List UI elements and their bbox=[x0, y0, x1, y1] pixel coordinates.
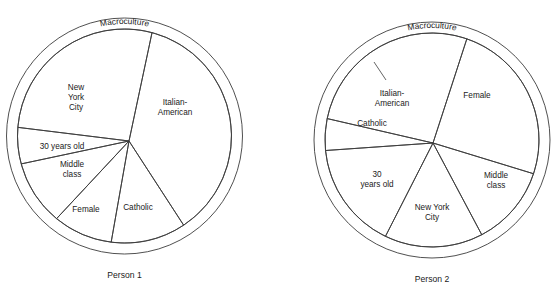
slice-label-female-person-2: Female bbox=[463, 91, 491, 100]
slice-label-new-york-city-person-2: New YorkCity bbox=[415, 203, 450, 222]
slice-label-new-york-city-person-1: NewYorkCity bbox=[68, 83, 85, 113]
wheel-person-2: FemaleMiddleclassNew YorkCity30years old… bbox=[314, 20, 550, 284]
slice-label-female-person-1: Female bbox=[72, 205, 100, 214]
slice-label-catholic-person-1: Catholic bbox=[123, 203, 153, 212]
slice-new-york-city-person-1[interactable] bbox=[18, 29, 152, 141]
outer-ring-person-2 bbox=[314, 22, 550, 258]
caption-person-2: Person 2 bbox=[415, 274, 450, 284]
slice-new-york-city-person-2[interactable] bbox=[385, 143, 481, 247]
caption-person-1: Person 1 bbox=[107, 270, 142, 280]
slice-label-italian-american-person-1: Italian-American bbox=[158, 98, 193, 117]
identity-wheels-figure: Italian-AmericanCatholicFemaleMiddleclas… bbox=[0, 0, 559, 301]
slice-label-middle-class-person-1: Middleclass bbox=[60, 160, 85, 179]
slice-30-years-old-person-2[interactable] bbox=[326, 143, 433, 236]
macroculture-label-person-2: Macroculture bbox=[406, 20, 458, 33]
wheel-person-1: Italian-AmericanCatholicFemaleMiddleclas… bbox=[7, 16, 243, 280]
slice-label-italian-american-person-2: Italian-American bbox=[375, 89, 410, 108]
leader-line-italian-american-person-2 bbox=[374, 62, 386, 80]
slice-label-30-years-old-person-2: 30years old bbox=[360, 170, 394, 189]
slice-catholic-person-1[interactable] bbox=[111, 141, 183, 243]
slice-female-person-1[interactable] bbox=[57, 141, 129, 242]
outer-ring-person-1 bbox=[7, 18, 243, 254]
diagram-canvas: Italian-AmericanCatholicFemaleMiddleclas… bbox=[0, 0, 559, 301]
slice-female-person-2[interactable] bbox=[433, 39, 539, 174]
slice-label-middle-class-person-2: Middleclass bbox=[484, 171, 509, 190]
slice-label-30-years-old-person-1: 30 years old bbox=[40, 142, 85, 151]
macroculture-label-person-1: Macroculture bbox=[99, 16, 151, 29]
